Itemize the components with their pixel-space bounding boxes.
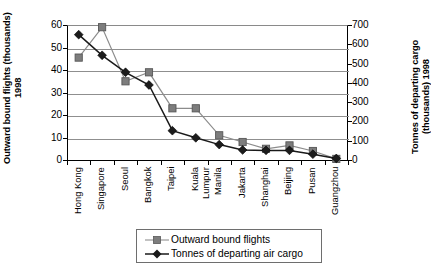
data-point-square [145, 69, 152, 76]
legend-key-diamond [143, 248, 171, 260]
data-point-square [192, 105, 199, 112]
chart-legend: Outward bound flights Tonnes of departin… [136, 229, 322, 263]
legend-item-flights: Outward bound flights [143, 233, 321, 247]
data-point-square [169, 105, 176, 112]
data-point-square [239, 138, 246, 145]
data-point-diamond [168, 126, 177, 135]
series-line-square [79, 27, 337, 159]
legend-label-cargo: Tonnes of departing air cargo [171, 248, 303, 260]
data-point-square [122, 78, 129, 85]
data-point-diamond [145, 81, 154, 90]
data-point-square [99, 24, 106, 31]
data-point-diamond [238, 146, 247, 155]
data-point-diamond [215, 140, 224, 149]
legend-key-square [143, 234, 171, 246]
data-point-diamond [191, 133, 200, 142]
chart-figure: Outward bound flights (thousands) 1998 T… [0, 0, 447, 274]
legend-item-cargo: Tonnes of departing air cargo [143, 247, 321, 261]
legend-label-flights: Outward bound flights [171, 234, 270, 246]
data-point-square [75, 54, 82, 61]
series-line-diamond [79, 35, 337, 159]
data-point-square [216, 132, 223, 139]
